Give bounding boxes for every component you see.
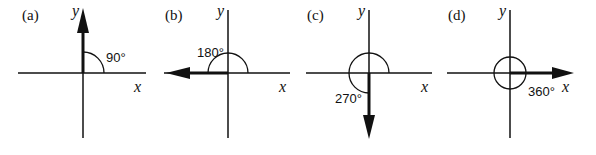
x-axis-label: x xyxy=(133,78,141,95)
panel-label: (c) xyxy=(307,7,324,24)
y-axis-label: y xyxy=(356,2,366,20)
x-axis-label: x xyxy=(278,78,286,95)
x-axis-label: x xyxy=(420,78,428,95)
x-axis-label: x xyxy=(561,78,569,95)
panel-label: (b) xyxy=(165,7,183,24)
arrowhead-down-icon xyxy=(363,115,375,139)
angle-arc xyxy=(83,52,104,73)
angle-label: 180° xyxy=(197,45,224,60)
panel-c: (c) y x 270° xyxy=(306,2,432,139)
panel-label: (a) xyxy=(22,7,39,24)
y-axis-label: y xyxy=(70,2,80,20)
angle-label: 270° xyxy=(335,91,362,106)
panel-b: (b) y x 180° xyxy=(164,2,290,138)
y-axis-label: y xyxy=(497,2,507,20)
panel-label: (d) xyxy=(448,7,466,24)
angle-label: 360° xyxy=(528,84,555,99)
panel-a: (a) y x 90° xyxy=(18,2,146,138)
arrowhead-left-icon xyxy=(166,67,190,79)
panel-d: (d) y x 360° xyxy=(447,2,574,138)
y-axis-label: y xyxy=(215,2,225,20)
angle-label: 90° xyxy=(106,50,126,65)
rotation-angle-figure: (a) y x 90° (b) y x 180° (c) y xyxy=(0,0,596,155)
